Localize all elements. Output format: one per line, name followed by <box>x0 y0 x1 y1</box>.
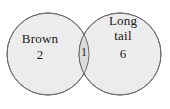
left-set-label: Brown <box>10 32 70 47</box>
right-set-count: 6 <box>97 47 149 62</box>
right-set-label-line-1: Long <box>109 13 137 28</box>
right-set-label-line-2: tail <box>97 29 149 44</box>
left-set-count: 2 <box>10 48 70 63</box>
intersection-count: 1 <box>74 46 94 59</box>
right-set-label: Longtail <box>97 14 149 43</box>
venn-diagram: Brown 2 Longtail 6 1 <box>0 0 170 109</box>
